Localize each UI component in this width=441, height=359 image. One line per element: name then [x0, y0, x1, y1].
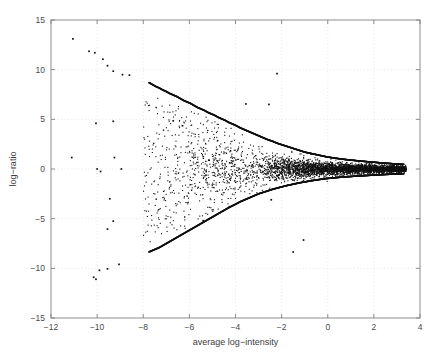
data-point	[252, 164, 253, 165]
data-point	[233, 165, 234, 166]
data-point	[375, 170, 376, 171]
data-point	[332, 169, 333, 170]
data-point	[299, 161, 300, 162]
data-point	[282, 159, 283, 160]
data-point	[303, 155, 304, 156]
data-point	[381, 168, 382, 169]
data-point	[310, 164, 311, 165]
data-point	[209, 138, 210, 139]
data-point	[191, 156, 192, 157]
data-point	[266, 159, 267, 160]
data-point	[252, 172, 253, 173]
data-point	[216, 182, 217, 183]
data-point	[158, 217, 159, 218]
data-point	[196, 194, 197, 195]
data-point	[225, 168, 226, 169]
data-point	[254, 177, 255, 178]
data-point	[323, 174, 324, 175]
data-point	[154, 193, 155, 194]
data-point	[259, 169, 260, 170]
data-point	[274, 172, 275, 173]
data-point	[292, 179, 293, 180]
data-point	[265, 171, 266, 172]
data-point	[174, 193, 175, 194]
data-point	[403, 173, 404, 174]
data-point	[364, 170, 365, 171]
data-point	[143, 235, 144, 236]
data-point	[343, 175, 344, 176]
data-point	[283, 167, 284, 168]
data-point	[301, 168, 302, 169]
data-point	[203, 178, 204, 179]
data-point	[162, 155, 163, 156]
data-point	[231, 154, 232, 155]
data-point	[186, 116, 187, 117]
data-point	[72, 38, 74, 40]
data-point	[256, 179, 257, 180]
data-point	[276, 153, 277, 154]
data-point	[285, 167, 286, 168]
data-point	[246, 171, 247, 172]
data-point	[173, 116, 174, 117]
data-point	[234, 140, 235, 141]
data-point	[272, 167, 273, 168]
data-point	[107, 268, 109, 270]
data-point	[241, 152, 242, 153]
data-point	[173, 220, 174, 221]
data-point	[378, 173, 379, 174]
data-point	[219, 189, 220, 190]
data-point	[344, 167, 345, 168]
data-point	[252, 180, 253, 181]
data-point	[197, 159, 198, 160]
data-point	[398, 165, 399, 166]
data-point	[215, 157, 216, 158]
data-point	[269, 155, 270, 156]
data-point	[191, 124, 192, 125]
data-point	[272, 157, 273, 158]
data-point	[281, 165, 282, 166]
data-point	[237, 181, 238, 182]
data-point	[188, 214, 189, 215]
data-point	[373, 173, 374, 174]
data-point	[224, 135, 225, 136]
data-point	[304, 169, 305, 170]
data-point	[309, 161, 310, 162]
data-point	[275, 159, 276, 160]
data-point	[114, 157, 116, 159]
data-point	[168, 130, 169, 131]
data-point	[312, 175, 313, 176]
data-point	[216, 132, 217, 133]
data-point	[400, 168, 401, 169]
data-point	[157, 212, 158, 213]
data-point	[252, 150, 253, 151]
data-point	[213, 160, 214, 161]
data-point	[296, 174, 297, 175]
data-point	[184, 162, 185, 163]
data-point	[371, 166, 372, 167]
data-point	[145, 176, 146, 177]
data-point	[240, 160, 241, 161]
data-point	[287, 158, 288, 159]
data-point	[405, 169, 406, 170]
data-point	[212, 209, 213, 210]
data-point	[252, 176, 253, 177]
data-point	[197, 157, 198, 158]
data-point	[249, 193, 250, 194]
data-point	[232, 166, 233, 167]
data-point	[288, 165, 289, 166]
data-point	[255, 166, 256, 167]
data-point	[202, 155, 203, 156]
data-point	[188, 198, 189, 199]
data-point	[207, 120, 208, 121]
data-point	[245, 165, 246, 166]
data-point	[212, 184, 213, 185]
data-point	[173, 212, 174, 213]
data-point	[165, 206, 166, 207]
data-point	[247, 154, 248, 155]
data-point	[216, 137, 217, 138]
data-point	[109, 198, 111, 200]
data-point	[206, 164, 207, 165]
data-point	[170, 186, 171, 187]
y-tick-label: −5	[35, 214, 45, 224]
data-point	[332, 174, 333, 175]
